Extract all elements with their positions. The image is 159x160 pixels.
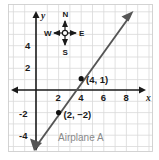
- y-axis-label: y: [40, 11, 46, 21]
- y-tick-4: 4: [25, 40, 31, 51]
- compass-hub: [62, 30, 67, 35]
- compass-label-north: N: [63, 10, 69, 19]
- x-tick-8: 8: [123, 92, 128, 103]
- compass-label-south: S: [63, 48, 69, 57]
- figure-caption: Airplane A: [58, 132, 104, 143]
- point-marker-2-neg2: [56, 110, 61, 115]
- x-tick-2: 2: [56, 92, 61, 103]
- compass-label-west: W: [44, 29, 52, 38]
- compass-label-east: E: [79, 29, 85, 38]
- x-axis-label: x: [145, 93, 151, 103]
- point-label-2-neg2: (2, −2): [64, 109, 92, 120]
- y-tick-2: 2: [25, 62, 30, 73]
- x-tick-4: 4: [78, 92, 84, 103]
- point-marker-4-1: [79, 76, 84, 81]
- coordinate-plane-figure: y x 2 4 6 8 4 2 -2 -4 (4, 1) (2, −2): [0, 0, 159, 160]
- y-tick-neg4: -4: [19, 130, 28, 141]
- x-tick-6: 6: [101, 92, 106, 103]
- y-tick-neg2: -2: [19, 108, 27, 119]
- point-label-4-1: (4, 1): [86, 74, 108, 85]
